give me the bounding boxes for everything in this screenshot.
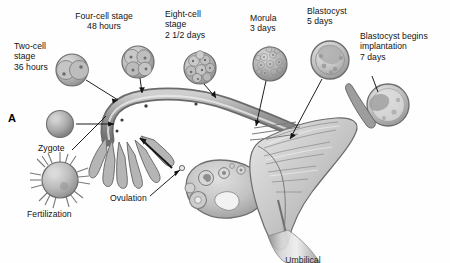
figure-canvas: A Two-cell stage 36 hours Four-cell stag…: [0, 0, 450, 263]
label-fertilization: Fertilization: [27, 209, 72, 219]
label-zygote: Zygote: [38, 143, 65, 153]
panel-letter-a: A: [8, 112, 16, 124]
label-umbilical: Umbilical: [258, 255, 348, 263]
label-blastocyst: Blastocyst 5 days: [307, 6, 373, 27]
label-four-cell-stage: Four-cell stage 48 hours: [58, 11, 150, 32]
label-two-cell-stage: Two-cell stage 36 hours: [14, 41, 74, 72]
label-blastocyst-implantation: Blastocyst begins implantation 7 days: [360, 31, 450, 62]
label-morula: Morula 3 days: [250, 13, 308, 34]
label-ovulation: Ovulation: [110, 193, 147, 203]
label-eight-cell-stage: Eight-cell stage 2 1/2 days: [165, 9, 229, 40]
